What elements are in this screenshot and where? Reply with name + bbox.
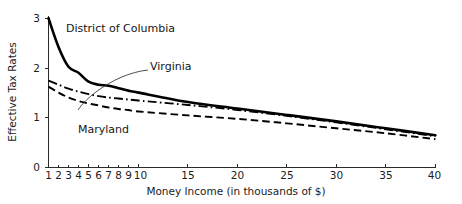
x-ticklabel-6: 6: [95, 169, 102, 181]
effective-tax-rates-line-chart: 3 2 1 0 1 2 3: [0, 0, 462, 204]
x-ticklabel-25: 25: [280, 169, 293, 181]
series-label-maryland: Maryland: [78, 123, 129, 136]
y-ticklabel-2: 2: [33, 62, 40, 74]
y-axis-title: Effective Tax Rates: [6, 42, 18, 141]
x-ticklabel-2: 2: [55, 169, 62, 181]
x-ticklabel-40: 40: [428, 169, 441, 181]
x-ticklabel-1: 1: [45, 169, 52, 181]
y-ticklabel-0: 0: [33, 161, 40, 173]
x-ticklabel-7: 7: [105, 169, 112, 181]
x-ticklabel-30: 30: [330, 169, 343, 181]
y-ticklabel-3: 3: [33, 12, 40, 24]
x-ticklabel-9: 9: [125, 169, 132, 181]
x-ticklabel-5: 5: [85, 169, 92, 181]
series-label-district-of-columbia: District of Columbia: [66, 22, 175, 35]
x-ticklabel-10: 10: [134, 169, 147, 181]
x-axis-title: Money Income (in thousands of $): [146, 185, 325, 197]
x-ticklabel-35: 35: [379, 169, 392, 181]
x-ticklabel-4: 4: [75, 169, 82, 181]
chart-figure: 3 2 1 0 1 2 3: [0, 0, 462, 204]
x-ticklabel-8: 8: [115, 169, 122, 181]
x-ticklabel-20: 20: [231, 169, 244, 181]
series-label-virginia: Virginia: [150, 60, 191, 73]
x-ticklabel-3: 3: [65, 169, 72, 181]
x-ticklabel-15: 15: [181, 169, 194, 181]
y-ticklabel-1: 1: [33, 111, 40, 123]
